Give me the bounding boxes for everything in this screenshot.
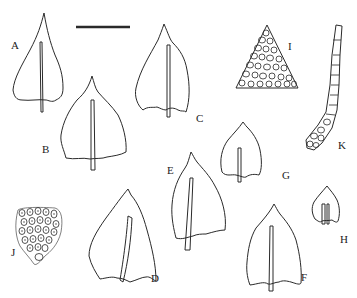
label-b: B xyxy=(42,144,49,155)
label-f: F xyxy=(301,272,307,283)
label-h: H xyxy=(340,234,348,245)
leaf-c xyxy=(135,24,189,117)
label-k: K xyxy=(338,140,346,151)
label-e: E xyxy=(167,165,174,176)
leaf-e xyxy=(172,152,226,250)
label-i: I xyxy=(288,41,292,52)
label-a: A xyxy=(11,40,19,51)
leaf-h xyxy=(312,186,339,224)
label-c: C xyxy=(196,113,203,124)
cells-i xyxy=(236,25,298,88)
leaf-g xyxy=(221,122,262,182)
label-g: G xyxy=(282,170,290,181)
label-d: D xyxy=(151,273,159,284)
leaf-b xyxy=(61,76,126,170)
label-j: J xyxy=(11,247,15,258)
botanical-plate: A B C D E F G H I J K xyxy=(0,0,357,298)
cells-k xyxy=(306,25,342,150)
cells-j xyxy=(16,207,62,264)
leaf-f xyxy=(247,204,302,291)
leaf-d xyxy=(89,189,156,282)
plate-drawing xyxy=(0,0,357,298)
leaf-a xyxy=(13,13,63,112)
